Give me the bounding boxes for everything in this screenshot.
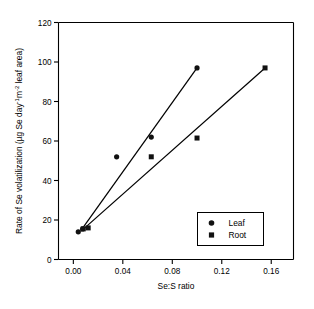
- data-point-circle: [149, 134, 154, 139]
- x-tick-label: 0.00: [65, 267, 81, 276]
- y-tick-label: 40: [42, 177, 52, 186]
- fit-lines: [81, 68, 265, 231]
- data-point-circle: [76, 229, 81, 234]
- y-axis-title: Rate of Se volatilization (µg Se day-1m-…: [14, 48, 24, 234]
- scatter-plot: 0204060801001200.000.040.080.120.16Se:S …: [0, 0, 314, 309]
- x-tick-label: 0.04: [115, 267, 131, 276]
- y-tick-label: 0: [47, 256, 52, 265]
- y-tick-label: 80: [42, 98, 52, 107]
- legend-marker-circle: [209, 220, 215, 226]
- data-point-square: [86, 225, 91, 230]
- y-axis-ticks: 020406080100120: [38, 19, 59, 265]
- figure-container: 0204060801001200.000.040.080.120.16Se:S …: [0, 0, 314, 309]
- legend-label: Root: [229, 230, 247, 240]
- data-point-square: [149, 154, 154, 159]
- data-point-circle: [114, 154, 119, 159]
- legend-label: Leaf: [229, 218, 246, 228]
- x-tick-label: 0.08: [164, 267, 180, 276]
- legend: LeafRoot: [198, 213, 264, 246]
- fit-line-root: [81, 68, 265, 231]
- x-axis-title: Se:S ratio: [158, 281, 195, 291]
- y-tick-label: 120: [38, 19, 52, 28]
- legend-marker-square: [209, 232, 214, 237]
- data-point-square: [195, 136, 200, 141]
- x-tick-label: 0.12: [214, 267, 230, 276]
- data-point-circle: [194, 65, 199, 70]
- y-tick-label: 20: [42, 216, 52, 225]
- fit-line-leaf: [81, 68, 197, 230]
- y-tick-label: 100: [38, 58, 52, 67]
- data-point-square: [81, 226, 86, 231]
- y-tick-label: 60: [42, 137, 52, 146]
- x-tick-label: 0.16: [263, 267, 279, 276]
- x-axis-ticks: 0.000.040.080.120.16: [65, 260, 279, 276]
- data-point-square: [263, 65, 268, 70]
